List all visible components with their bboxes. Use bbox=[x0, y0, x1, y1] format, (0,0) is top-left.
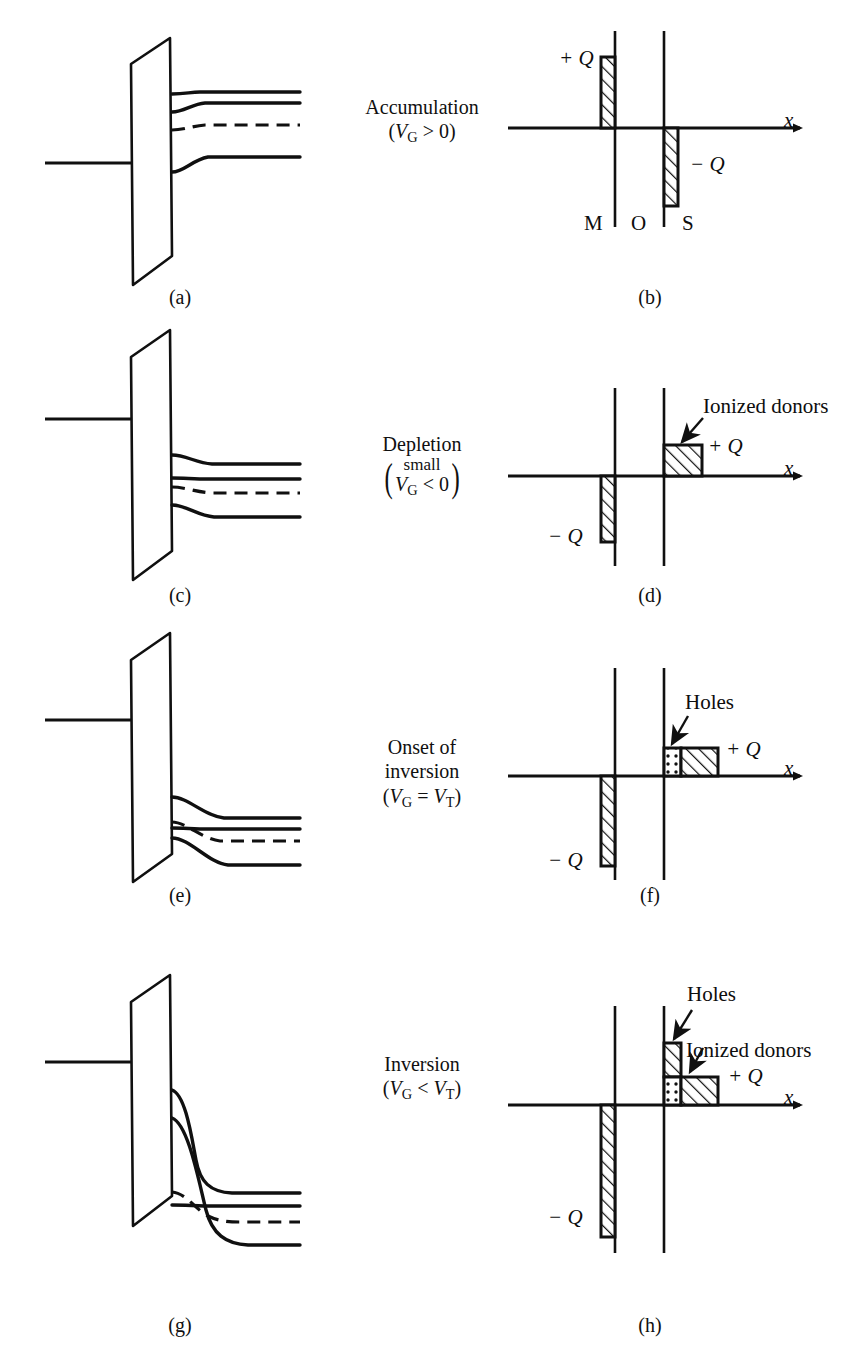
x-axis-label: x bbox=[784, 108, 793, 133]
v-symbol: V bbox=[395, 120, 407, 142]
condition-name: Depletion bbox=[327, 432, 517, 456]
v-subscript: G bbox=[407, 482, 417, 498]
fermi-level-dashed bbox=[172, 822, 300, 841]
x-axis-arrow bbox=[793, 772, 803, 781]
row-accumulation-charge-diagram bbox=[508, 31, 803, 227]
x-axis-arrow bbox=[793, 472, 803, 481]
v-symbol-2: V bbox=[433, 785, 445, 807]
positive-charge-label: + Q bbox=[726, 737, 761, 762]
metal-gate-plate bbox=[131, 330, 172, 580]
negative-charge-label: − Q bbox=[548, 524, 583, 549]
v-symbol-2: V bbox=[433, 1077, 445, 1099]
metal-negative-charge-bar bbox=[601, 776, 615, 866]
holes-annotation: Holes bbox=[685, 690, 734, 715]
condition-bias: ( small VG < 0 ) bbox=[327, 456, 517, 498]
holes-arrow bbox=[672, 716, 688, 744]
panel-letter-b: (b) bbox=[620, 286, 680, 309]
condition-name: Accumulation bbox=[327, 95, 517, 119]
positive-charge-label: + Q bbox=[708, 434, 743, 459]
condition-label-inversion: Inversion (VG < VT) bbox=[327, 1052, 517, 1104]
panel-letter-g: (g) bbox=[150, 1314, 210, 1337]
metal-region-label: M bbox=[584, 211, 603, 236]
condition-label-onset-inversion: Onset of inversion (VG = VT) bbox=[327, 735, 517, 811]
row-accumulation-band-diagram bbox=[45, 37, 300, 285]
v-relation: > 0 bbox=[418, 120, 449, 142]
figure-canvas bbox=[0, 0, 847, 1371]
semiconductor-region-label: S bbox=[682, 211, 694, 236]
valence-band-edge bbox=[172, 157, 300, 172]
v-symbol: V bbox=[395, 473, 407, 495]
conduction-band-edge bbox=[172, 92, 300, 94]
negative-charge-label: − Q bbox=[690, 152, 725, 177]
bias-small-word: small bbox=[395, 456, 449, 474]
left-paren: ( bbox=[384, 460, 392, 495]
mos-capacitor-figure: x + Q − Q M O S Accumulation (VG > 0) x … bbox=[0, 0, 847, 1371]
v-subscript: G bbox=[407, 129, 417, 145]
holes-charge-region bbox=[664, 1077, 681, 1105]
positive-charge-label: + Q bbox=[728, 1064, 763, 1089]
paren-stack: ( small VG < 0 ) bbox=[382, 456, 463, 498]
x-axis-arrow bbox=[793, 1101, 803, 1110]
condition-name-line1: Onset of bbox=[327, 735, 517, 759]
oxide-region-label: O bbox=[631, 211, 646, 236]
panel-letter-c: (c) bbox=[150, 584, 210, 607]
holes-charge-column bbox=[664, 1043, 681, 1077]
metal-negative-charge-bar bbox=[601, 1105, 615, 1237]
holes-arrow bbox=[674, 1010, 692, 1039]
condition-bias: (VG > 0) bbox=[327, 119, 517, 147]
v-symbol: V bbox=[390, 785, 402, 807]
x-axis-label: x bbox=[784, 456, 793, 481]
ionized-donors-charge-box bbox=[681, 748, 718, 776]
holes-annotation: Holes bbox=[687, 982, 736, 1007]
panel-letter-e: (e) bbox=[150, 884, 210, 907]
v-relation: < bbox=[412, 1077, 433, 1099]
metal-gate-plate bbox=[131, 633, 172, 882]
condition-bias: (VG < VT) bbox=[327, 1076, 517, 1104]
ionized-donors-charge-box bbox=[664, 445, 702, 476]
v-symbol: V bbox=[390, 1077, 402, 1099]
semiconductor-negative-charge-bar bbox=[664, 128, 678, 206]
negative-charge-label: − Q bbox=[548, 848, 583, 873]
metal-gate-plate bbox=[131, 38, 172, 285]
ionized-donors-annotation: Ionized donors bbox=[703, 394, 828, 419]
ionized-donors-arrow bbox=[682, 418, 703, 442]
ionized-donors-annotation: Ionized donors bbox=[686, 1038, 811, 1063]
metal-positive-charge-bar bbox=[601, 57, 615, 128]
conduction-band-edge bbox=[172, 1090, 300, 1193]
panel-letter-a: (a) bbox=[150, 286, 210, 309]
condition-label-depletion: Depletion ( small VG < 0 ) bbox=[327, 432, 517, 498]
negative-charge-label: − Q bbox=[548, 1205, 583, 1230]
v-relation: = bbox=[412, 785, 433, 807]
v-subscript-2: T bbox=[446, 794, 455, 810]
condition-label-accumulation: Accumulation (VG > 0) bbox=[327, 95, 517, 147]
band-edge-second bbox=[172, 478, 300, 479]
panel-letter-h: (h) bbox=[620, 1314, 680, 1337]
condition-name-line2: inversion bbox=[327, 759, 517, 783]
x-axis-label: x bbox=[784, 1085, 793, 1110]
band-edge-second bbox=[172, 1205, 300, 1206]
ionized-donors-charge-box bbox=[681, 1077, 718, 1105]
row-depletion-band-diagram bbox=[45, 330, 300, 580]
valence-band-edge bbox=[172, 505, 300, 517]
positive-charge-label: + Q bbox=[559, 46, 594, 71]
condition-bias: (VG = VT) bbox=[327, 784, 517, 812]
v-subscript: G bbox=[402, 794, 412, 810]
conduction-band-edge bbox=[172, 797, 300, 818]
panel-letter-f: (f) bbox=[620, 884, 680, 907]
row-onset-inversion-band-diagram bbox=[45, 633, 300, 882]
metal-gate-plate bbox=[131, 975, 172, 1226]
conduction-band-edge bbox=[172, 455, 300, 464]
v-subscript-2: T bbox=[446, 1086, 455, 1102]
v-relation: < 0 bbox=[418, 473, 449, 495]
band-edge-second bbox=[172, 103, 300, 112]
bias-expression: VG < 0 bbox=[395, 474, 449, 498]
band-edge-second bbox=[172, 828, 300, 829]
row-inversion-band-diagram bbox=[45, 975, 300, 1245]
holes-charge-region bbox=[664, 748, 681, 776]
condition-name: Inversion bbox=[327, 1052, 517, 1076]
fermi-level-dashed bbox=[172, 125, 300, 130]
metal-negative-charge-bar bbox=[601, 476, 615, 542]
fermi-level-dashed bbox=[172, 487, 300, 493]
v-subscript: G bbox=[402, 1086, 412, 1102]
panel-letter-d: (d) bbox=[620, 584, 680, 607]
